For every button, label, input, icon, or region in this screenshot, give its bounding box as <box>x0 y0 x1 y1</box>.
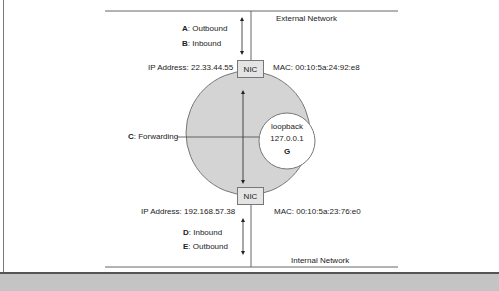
bottom-ip-address: IP Address: 192.168.57.38 <box>141 207 235 217</box>
bottom-mac-address: MAC: 00:10:5a:23:76:e0 <box>274 207 361 217</box>
flow-b-label: B: Inbound <box>182 39 221 49</box>
top-nic-box: NIC <box>237 60 264 78</box>
external-network-label: External Network <box>276 14 337 24</box>
flow-d-label: D: Inbound <box>183 228 222 238</box>
loopback-name: loopback <box>262 121 312 132</box>
forwarding-label: C: Forwarding <box>128 132 178 142</box>
flow-e-label: E: Outbound <box>183 242 228 252</box>
top-mac-address: MAC: 00:10:5a:24:92:e8 <box>273 63 360 73</box>
bottom-gray-band <box>0 272 499 291</box>
internal-network-label: Internal Network <box>291 256 349 266</box>
bottom-nic-box: NIC <box>237 187 264 205</box>
loopback-ip: 127.0.0.1 <box>262 133 312 144</box>
flow-a-label: A: Outbound <box>182 24 227 34</box>
top-ip-address: IP Address: 22.33.44.55 <box>148 63 233 73</box>
loopback-key: G <box>262 146 312 157</box>
